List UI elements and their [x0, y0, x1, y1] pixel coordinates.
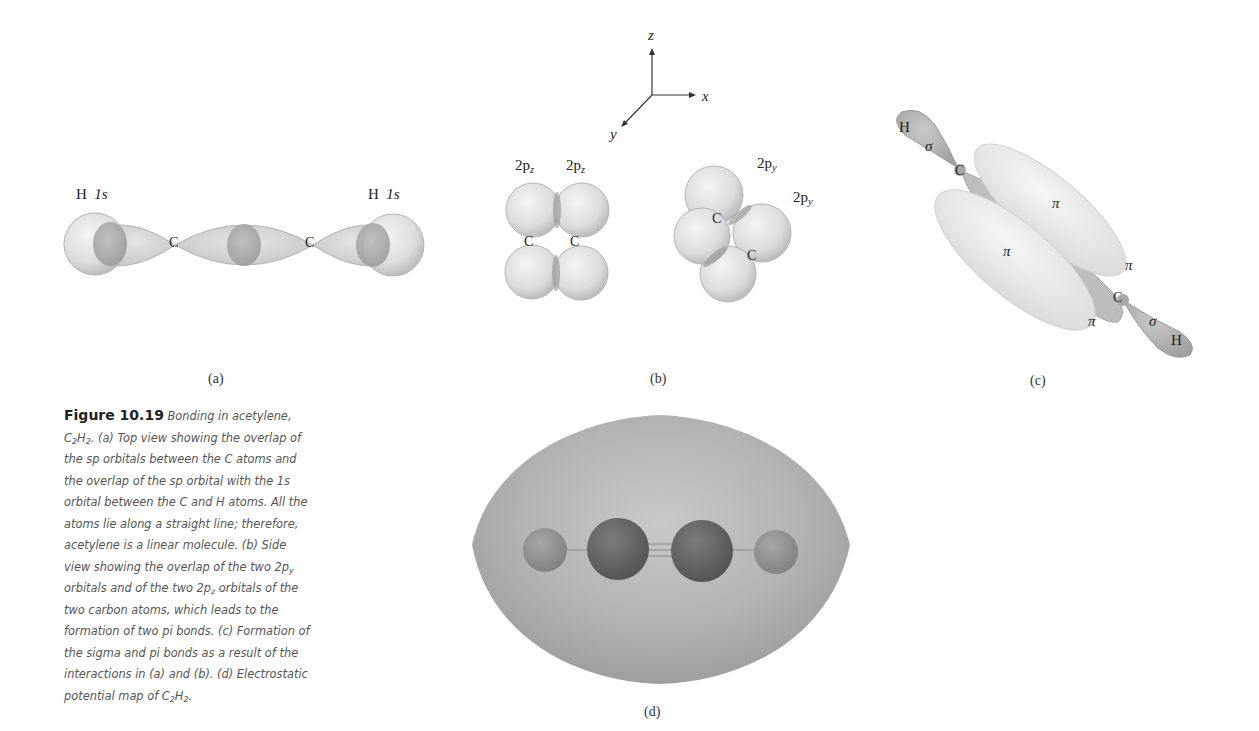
sigma-label-bottom: σ [1149, 313, 1156, 330]
caption-line: two carbon atoms, which leads to the [64, 600, 409, 622]
axis-y-label: y [610, 126, 617, 143]
pz-label-2: 2pz [566, 157, 585, 174]
caption-line: potential map of C2H2. [64, 686, 409, 708]
electrostatic-potential-map [460, 400, 860, 700]
pz-orbitals-diagram [490, 180, 630, 320]
caption-line: the overlap of the sp orbital with the 1… [64, 471, 409, 493]
pi-label-3: π [1125, 257, 1133, 274]
caption-line: the sp orbitals between the C atoms and [64, 449, 409, 471]
caption-line: orbitals and of the two 2pz orbitals of … [64, 578, 409, 600]
py-label-2: 2py [793, 189, 813, 206]
caption-line: orbital between the C and H atoms. All t… [64, 492, 409, 514]
caption-line: the sigma and pi bonds as a result of th… [64, 643, 409, 665]
pi-label-4: π [1088, 313, 1096, 330]
caption-line: Figure 10.19 Bonding in acetylene, [64, 405, 409, 428]
caption-line: acetylene is a linear molecule. (b) Side [64, 535, 409, 557]
panel-a-diagram [0, 0, 460, 340]
caption-line: atoms lie along a straight line; therefo… [64, 514, 409, 536]
pi-label-1: π [1052, 195, 1060, 212]
hydrogen-label-bottom: H [1171, 332, 1182, 349]
py-label-1: 2py [757, 155, 777, 172]
axis-x-label: x [702, 88, 709, 105]
carbon-label-bottom: C [1113, 290, 1122, 306]
carbon-label-left: C [169, 235, 178, 251]
carbon-label-top: C [955, 163, 964, 179]
sigma-label-top: σ [925, 138, 932, 155]
carbon-label-pz-right: C [570, 234, 579, 250]
carbon-label-py-upper: C [712, 211, 721, 227]
axis-z-label: z [648, 27, 654, 44]
caption-line: formation of two pi bonds. (c) Formation… [64, 621, 409, 643]
carbon-label-right: C [305, 235, 314, 251]
caption-line: interactions in (a) and (b). (d) Electro… [64, 664, 409, 686]
pz-label-1: 2pz [515, 157, 534, 174]
figure-caption: Figure 10.19 Bonding in acetylene, C2H2.… [64, 405, 409, 707]
carbon-label-pz-left: C [524, 234, 533, 250]
h-atom-label-left: H 1s [76, 186, 108, 203]
h-atom-label-right: H 1s [368, 186, 400, 203]
pi-label-2: π [1003, 243, 1011, 260]
panel-b-label: (b) [650, 371, 666, 387]
figure-number: Figure 10.19 [64, 407, 164, 423]
panel-d-label: (d) [644, 704, 660, 720]
panel-c-label: (c) [1030, 373, 1046, 389]
py-orbitals-diagram [660, 160, 810, 320]
caption-line: view showing the overlap of the two 2py [64, 557, 409, 579]
panel-a-label: (a) [208, 371, 224, 387]
carbon-label-py-lower: C [747, 248, 756, 264]
caption-line: C2H2. (a) Top view showing the overlap o… [64, 428, 409, 450]
hydrogen-label-top: H [899, 119, 910, 136]
